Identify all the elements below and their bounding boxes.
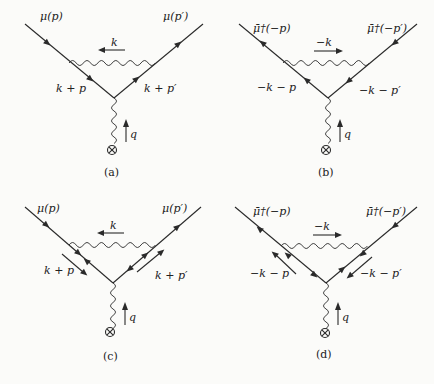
incoming-label: μ(p): [40, 10, 63, 23]
external-photon-line: [326, 98, 331, 144]
fermion-arrow-icon: [358, 250, 367, 259]
loop-photon-label: k: [111, 36, 118, 49]
loop-photon-label: −k: [314, 220, 330, 233]
q-label: q: [129, 311, 136, 324]
q-arrowhead-icon: [123, 119, 129, 127]
right-internal-label: −k − p′: [359, 84, 401, 97]
external-source-otimes-icon: [322, 146, 331, 155]
q-label: q: [130, 128, 137, 141]
incoming-label: μ̄†(−p): [253, 205, 291, 218]
incoming-label: μ̄†(−p): [253, 22, 291, 35]
outgoing-label: μ̄†(−p′): [367, 22, 407, 35]
outgoing-label: μ̄†(−p′): [366, 205, 406, 218]
q-arrowhead-icon: [337, 119, 343, 127]
external-source-otimes-icon: [108, 146, 117, 155]
incoming-label: μ(p): [37, 202, 60, 215]
fermion-arrow-icon: [255, 224, 264, 233]
caption-b: (b): [318, 166, 334, 179]
loop-photon-label: k: [110, 219, 117, 232]
q-arrowhead-icon: [122, 302, 128, 310]
loop-photon-line: [69, 243, 155, 248]
right-internal-label: k + p′: [155, 269, 188, 282]
caption-c: (c): [103, 350, 118, 363]
external-source-otimes-icon: [106, 328, 115, 337]
external-photon-line: [324, 283, 329, 329]
left-internal-label: k + p: [56, 82, 86, 95]
loop-photon-line: [281, 244, 367, 249]
diagram-a: μ(p) μ(p′) k k + p k + p′ q (a): [25, 10, 203, 179]
momentum-arrowhead-icon: [335, 232, 342, 238]
external-photon-line: [112, 98, 117, 144]
fermion-arrow-icon: [283, 250, 292, 259]
momentum-arrowhead-icon: [98, 47, 105, 53]
q-label: q: [344, 128, 351, 141]
right-internal-label: −k − p′: [360, 267, 402, 280]
caption-a: (a): [104, 166, 119, 179]
loop-photon-label: −k: [316, 36, 332, 49]
right-internal-label: k + p′: [144, 82, 177, 95]
momentum-arrowhead-icon: [336, 48, 343, 54]
diagram-c: μ(p) μ(p′) k k + p k + p′ q (c): [25, 202, 201, 363]
external-source-otimes-icon: [321, 329, 330, 338]
fermion-arrow-icon: [310, 271, 319, 280]
diagram-d: μ̄†(−p) μ̄†(−p′) −k −k − p −k − p′ q (d): [235, 205, 417, 361]
feynman-diagram-figure: μ(p) μ(p′) k k + p k + p′ q (a) μ̄†(−p) …: [0, 0, 434, 384]
outgoing-label: μ(p′): [162, 202, 187, 215]
diagram-b: μ̄†(−p) μ̄†(−p′) −k −k − p −k − p′ q (b): [239, 22, 417, 179]
left-internal-label: −k − p: [250, 267, 289, 280]
left-internal-label: −k − p: [257, 81, 296, 94]
q-arrowhead-icon: [335, 302, 341, 310]
external-photon-line: [111, 283, 116, 329]
loop-photon-line: [283, 61, 369, 66]
q-label: q: [342, 311, 349, 324]
left-internal-label: k + p: [44, 264, 74, 277]
caption-d: (d): [316, 348, 332, 361]
momentum-arrowhead-icon: [97, 230, 104, 236]
loop-photon-line: [69, 61, 155, 66]
outgoing-label: μ(p′): [163, 10, 188, 23]
